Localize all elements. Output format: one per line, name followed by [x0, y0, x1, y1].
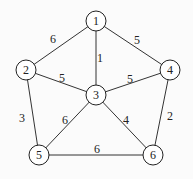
edge-2-5 — [26, 70, 39, 155]
node-3: 3 — [86, 85, 106, 105]
edge-1-2 — [26, 21, 96, 70]
node-label: 1 — [93, 14, 99, 28]
node-1: 1 — [86, 11, 106, 31]
node-label: 4 — [167, 63, 173, 77]
edge-weight-label: 5 — [134, 33, 140, 47]
node-2: 2 — [16, 60, 36, 80]
edge-weight-label: 2 — [167, 109, 173, 123]
node-5: 5 — [29, 145, 49, 165]
node-label: 2 — [23, 63, 29, 77]
edge-weight-label: 3 — [19, 111, 25, 125]
node-6: 6 — [143, 145, 163, 165]
edge-weight-label: 6 — [94, 142, 100, 156]
edge-weight-label: 4 — [123, 113, 129, 127]
edge-weight-label: 5 — [127, 72, 133, 86]
weighted-graph: 6155536426123456 — [0, 0, 193, 179]
edge-weight-label: 6 — [62, 113, 68, 127]
node-label: 6 — [150, 148, 156, 162]
edge-weight-label: 5 — [59, 71, 65, 85]
node-label: 5 — [36, 148, 42, 162]
node-4: 4 — [160, 60, 180, 80]
edge-3-4 — [96, 70, 170, 95]
edge-1-4 — [96, 21, 170, 70]
graph-diagram: 6155536426123456 — [0, 0, 193, 179]
edge-weight-label: 1 — [97, 51, 103, 65]
edge-weight-label: 6 — [50, 32, 56, 46]
node-label: 3 — [93, 88, 99, 102]
